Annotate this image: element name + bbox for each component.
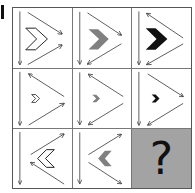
cell-r3c2[interactable] — [73, 129, 132, 188]
chevron-gray-small-icon — [73, 69, 131, 128]
cell-r2c3[interactable] — [132, 69, 191, 129]
cell-r1c1[interactable] — [13, 8, 73, 69]
cell-r1c3[interactable] — [132, 8, 191, 69]
chevron-outline-left-icon — [13, 129, 72, 188]
chevron-gray-left-icon — [73, 129, 131, 188]
answer-cell[interactable]: ? — [132, 129, 191, 188]
chevron-black-small-icon — [132, 69, 191, 128]
question-mark: ? — [150, 137, 173, 181]
cell-r2c2[interactable] — [73, 69, 132, 129]
cell-r1c2[interactable] — [73, 8, 132, 69]
puzzle-grid: ? — [12, 7, 192, 189]
cell-r3c1[interactable] — [13, 129, 73, 188]
chevron-gray-large-icon — [73, 8, 131, 68]
chevron-outline-large-icon — [13, 8, 72, 68]
cell-r2c1[interactable] — [13, 69, 73, 129]
chevron-outline-small-icon — [13, 69, 72, 128]
chevron-black-large-icon — [132, 8, 191, 68]
puzzle-marker-bar — [1, 5, 4, 19]
